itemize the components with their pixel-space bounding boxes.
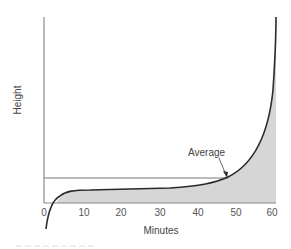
x-axis-label: Minutes [143,225,178,236]
x-tick-40: 40 [192,207,204,218]
average-label: Average [188,147,226,158]
x-tick-30: 30 [154,207,166,218]
x-tick-60: 60 [266,207,278,218]
chart: Average 0 10 20 30 40 50 60 Minutes Heig… [0,0,291,249]
shaded-area [56,17,276,203]
x-tick-10: 10 [78,207,90,218]
x-tick-50: 50 [230,207,242,218]
y-axis-label: Height [12,85,23,114]
x-tick-20: 20 [115,207,127,218]
x-tick-0: 0 [41,207,47,218]
